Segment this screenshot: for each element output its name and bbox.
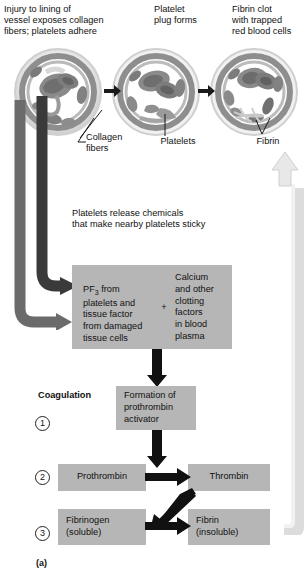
step2-prothrombin-label: Prothrombin [58, 471, 146, 483]
step3-fibrinogen-label: Fibrinogen (soluble) [66, 515, 146, 539]
step-number-1: 1 [35, 416, 50, 431]
arrow-fibrinogen-to-fibrin [145, 517, 193, 537]
micrograph-vessel-plug [110, 48, 202, 140]
pf3-label: PF3 [83, 284, 99, 294]
blood-clotting-diagram: Injury to lining of vessel exposes colla… [0, 0, 304, 579]
leader-line-platelets [163, 114, 167, 136]
arrow-fibrin-to-clot-feedback [258, 150, 304, 535]
label-fibrin: Fibrin [240, 136, 296, 147]
note-platelets-release-chemicals: Platelets release chemicals that make ne… [72, 208, 272, 230]
panel-heading-injury: Injury to lining of vessel exposes colla… [4, 4, 144, 37]
step-number-2: 2 [35, 470, 50, 485]
panel-heading-fibrin-clot: Fibrin clot with trapped red blood cells [232, 4, 304, 37]
arrow-prothrombin-to-thrombin [145, 468, 193, 488]
reactants-plus-sign: + [159, 302, 169, 314]
leader-line-fibrin [246, 112, 276, 134]
panel-heading-platelet-plug: Platelet plug forms [154, 4, 234, 26]
step1-box-label: Formation of prothrombin activator [124, 390, 198, 425]
coagulation-heading: Coagulation [38, 390, 118, 401]
figure-caption: (a) [36, 558, 47, 568]
step-number-3: 3 [35, 526, 50, 541]
arrow-reactants-to-step1 [147, 349, 167, 387]
arrow-stage1-to-stage2 [104, 84, 122, 98]
arrow-stage2-to-stage3 [198, 84, 216, 98]
arrow-step1-to-step2 [147, 430, 167, 468]
reactants-left-text: PF3 from platelets and tissue factor fro… [83, 272, 161, 345]
label-platelets: Platelets [143, 136, 213, 147]
reactants-right-text: Calcium and other clotting factors in bl… [175, 272, 235, 343]
